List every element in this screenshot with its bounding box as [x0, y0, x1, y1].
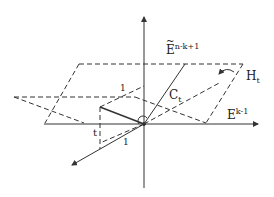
- geometry-figure: [0, 0, 274, 197]
- diagonal-axis: [72, 124, 144, 165]
- label-e-tilde-mark: ~: [166, 36, 174, 46]
- label-h-t: Ht: [246, 70, 260, 85]
- label-t: t: [93, 128, 97, 138]
- h-arrow: [219, 69, 234, 74]
- label-c-t: Ct: [169, 89, 181, 104]
- line-to-origin: [100, 107, 144, 124]
- label-one-upper: 1: [120, 84, 126, 93]
- label-one-lower: 1: [123, 138, 129, 147]
- label-e-k-1: Ek-1: [227, 108, 248, 121]
- diagram-canvas: En-k+1 ~ Ht Ct Ek-1 t 1 1: [0, 0, 274, 197]
